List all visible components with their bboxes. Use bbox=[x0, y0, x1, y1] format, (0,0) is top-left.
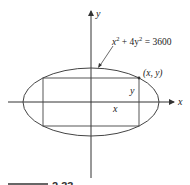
half-height-label: y bbox=[129, 85, 135, 96]
point-label: (x, y) bbox=[143, 68, 163, 79]
caption-fragment-bar bbox=[8, 183, 48, 185]
eq-mid: + 4y bbox=[119, 37, 139, 47]
equation-label: x2 + 4y2 = 3600 bbox=[111, 35, 172, 47]
equation-leader-line bbox=[99, 46, 113, 67]
point-marker bbox=[138, 77, 141, 80]
caption-fragment: 2.33 bbox=[52, 180, 73, 185]
x-axis-label: x bbox=[177, 96, 183, 107]
half-width-label: x bbox=[112, 103, 118, 114]
eq-rhs: = 3600 bbox=[142, 37, 171, 47]
ellipse-rectangle-diagram: y x x2 + 4y2 = 3600 (x, y) y x 2.33 bbox=[0, 0, 190, 185]
y-axis-label: y bbox=[95, 8, 101, 19]
